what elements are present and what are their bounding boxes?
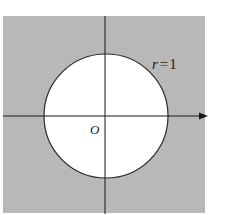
radius-label: r=1 [152, 56, 177, 72]
polar-region-diagram: O r=1 [0, 0, 231, 215]
origin-label: O [90, 122, 100, 137]
radius-var: r [152, 56, 158, 72]
radius-val: 1 [169, 56, 177, 72]
radius-eq: = [160, 56, 168, 72]
